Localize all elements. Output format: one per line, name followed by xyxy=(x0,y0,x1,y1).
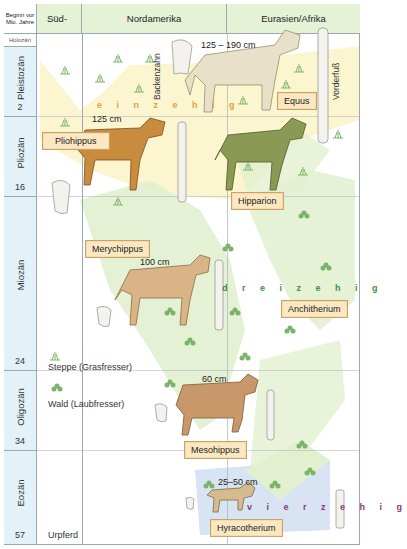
hyracotherium-molar-icon xyxy=(186,497,194,509)
equus-molar-icon xyxy=(172,40,192,74)
label-hyracotherium: Hyracotherium xyxy=(210,519,283,537)
mesohippus-foot-bone-icon xyxy=(267,390,274,440)
equus-size: 125 – 190 cm xyxy=(201,40,256,50)
molar-label: Backenzahn xyxy=(152,53,162,100)
forefoot-bone-icon xyxy=(318,28,328,143)
ancestral-horse-note: Urpferd xyxy=(48,530,78,540)
four-toe-label: v i e r z e h i g xyxy=(247,502,407,512)
label-hipparion: Hipparion xyxy=(231,192,284,210)
steppe-note: Steppe (Grasfresser) xyxy=(48,362,132,372)
forest-note: Wald (Laubfresser) xyxy=(48,399,124,409)
three-toe-label: d r e i z e h i g xyxy=(222,283,384,293)
pliohippus-molar-icon xyxy=(52,180,70,213)
label-pliohippus: Pliohippus xyxy=(42,132,110,150)
label-anchitherium: Anchitherium xyxy=(281,300,348,318)
hyracotherium-size: 25–50 cm xyxy=(218,477,258,487)
merychippus-size: 100 cm xyxy=(140,257,170,267)
hipparion-horse-icon xyxy=(215,118,306,190)
label-mesohippus: Mesohippus xyxy=(184,441,247,459)
forefoot-label: Vorderfuß xyxy=(331,63,341,100)
pliohippus-size: 125 cm xyxy=(92,114,122,124)
one-toe-label: e i n z e h i g xyxy=(97,100,241,110)
mesohippus-molar-icon xyxy=(155,404,167,422)
label-equus: Equus xyxy=(277,92,317,110)
merychippus-molar-icon xyxy=(97,306,111,326)
pliohippus-horse-icon xyxy=(78,118,165,190)
mesohippus-size: 60 cm xyxy=(202,374,227,384)
label-merychippus: Merychippus xyxy=(85,240,150,258)
pliohippus-foot-bone-icon xyxy=(178,122,186,202)
merychippus-foot-bone-icon xyxy=(215,260,223,330)
